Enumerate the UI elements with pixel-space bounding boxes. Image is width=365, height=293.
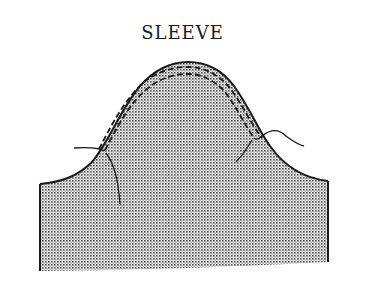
sleeve-piece [40,62,328,271]
sleeve-diagram [0,0,365,293]
